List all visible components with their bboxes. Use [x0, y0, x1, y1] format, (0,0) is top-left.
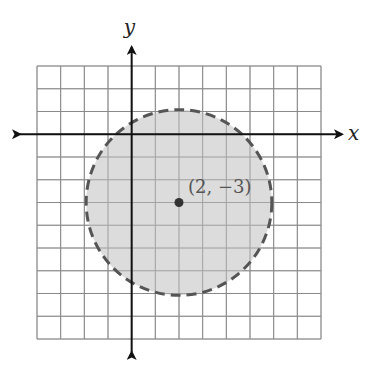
coordinate-plane: x y (2, −3) [0, 0, 376, 370]
center-point [175, 198, 184, 207]
center-point-label: (2, −3) [188, 176, 251, 197]
y-axis-label: y [123, 15, 136, 39]
x-axis-label: x [348, 121, 359, 145]
